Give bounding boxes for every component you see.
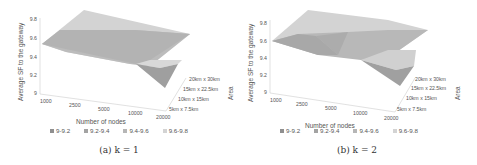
y-axis-ticks-a: 9.8 9.6 9.4 9.2 9 <box>30 16 37 96</box>
svg-text:1000: 1000 <box>270 97 282 103</box>
svg-text:9.2: 9.2 <box>260 72 267 78</box>
svg-text:9.8: 9.8 <box>260 20 267 26</box>
z-axis-ticks-b: 20km x 30km 15km x 22.5km 10km x 15km 5k… <box>397 76 446 112</box>
caption-a: (a) k = 1 <box>0 145 238 155</box>
surface-a <box>42 10 190 88</box>
svg-text:9.6: 9.6 <box>260 38 267 44</box>
x-axis-title-a: Number of nodes <box>76 118 127 125</box>
x-axis-ticks-b: 1000 2500 5000 10000 20000 <box>270 97 399 121</box>
svg-text:1000: 1000 <box>40 98 52 104</box>
z-axis-title-b: Area <box>454 86 461 100</box>
svg-text:9.4: 9.4 <box>260 55 267 61</box>
svg-text:2500: 2500 <box>296 101 308 107</box>
svg-text:20000: 20000 <box>384 115 399 121</box>
svg-text:10000: 10000 <box>353 110 368 116</box>
surface-chart-b: 9.8 9.6 9.4 9.2 9 1000 2500 5000 10000 2… <box>238 0 476 130</box>
chart-panel-a: 9.8 9.6 9.4 9.2 9 1000 2500 5000 10000 2… <box>0 0 238 165</box>
legend-item: 9-9.2 <box>50 127 70 134</box>
svg-text:20km x 30km: 20km x 30km <box>189 76 220 82</box>
svg-text:10000: 10000 <box>128 110 143 116</box>
caption-b: (b) k = 2 <box>238 145 476 155</box>
z-axis-title-a: Area <box>227 86 234 100</box>
legend-a: 9-9.2 9.2-9.4 9.4-9.6 9.6-9.8 <box>50 127 188 134</box>
svg-text:9.2: 9.2 <box>30 72 37 78</box>
svg-text:5km x 7.5km: 5km x 7.5km <box>397 106 426 112</box>
svg-text:10km x 15km: 10km x 15km <box>178 96 209 102</box>
svg-text:2500: 2500 <box>69 102 81 108</box>
surface-chart-a: 9.8 9.6 9.4 9.2 9 1000 2500 5000 10000 2… <box>0 0 238 130</box>
svg-text:10km x 15km: 10km x 15km <box>406 95 437 101</box>
svg-text:9.4: 9.4 <box>30 54 37 60</box>
svg-text:5000: 5000 <box>325 105 337 111</box>
svg-text:20km x 30km: 20km x 30km <box>415 76 446 82</box>
svg-text:15km x 22.5km: 15km x 22.5km <box>411 85 446 91</box>
legend-item: 9.2-9.4 <box>314 127 339 134</box>
svg-text:15km x 22.5km: 15km x 22.5km <box>183 86 218 92</box>
svg-text:9: 9 <box>264 89 267 95</box>
svg-text:9.6: 9.6 <box>30 35 37 41</box>
y-axis-title-a: Average SF to the gateway <box>17 22 25 101</box>
legend-b: 9-9.2 9.2-9.4 9.4-9.6 9.6-9.8 <box>280 127 418 134</box>
svg-text:9.8: 9.8 <box>30 16 37 22</box>
legend-item: 9.6-9.8 <box>163 127 188 134</box>
svg-text:20000: 20000 <box>156 114 171 120</box>
y-axis-title-b: Average SF to the gateway <box>247 23 255 102</box>
legend-item: 9-9.2 <box>280 127 300 134</box>
legend-item: 9.2-9.4 <box>84 127 109 134</box>
legend-item: 9.4-9.6 <box>123 127 148 134</box>
svg-text:5km x 7.5km: 5km x 7.5km <box>169 106 198 112</box>
svg-text:5000: 5000 <box>98 106 110 112</box>
svg-text:9: 9 <box>34 90 37 96</box>
surface-b <box>272 10 428 86</box>
chart-panel-b: 9.8 9.6 9.4 9.2 9 1000 2500 5000 10000 2… <box>238 0 476 165</box>
legend-item: 9.4-9.6 <box>353 127 378 134</box>
legend-item: 9.6-9.8 <box>393 127 418 134</box>
y-axis-ticks-b: 9.8 9.6 9.4 9.2 9 <box>260 20 267 95</box>
